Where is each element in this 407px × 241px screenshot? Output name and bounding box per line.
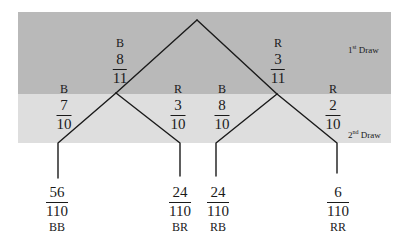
outcome-rb: 24 110 RB xyxy=(207,185,229,233)
branch-first-r xyxy=(197,20,277,94)
outcome-br: 24 110 BR xyxy=(169,185,191,233)
draw-number: 2 xyxy=(348,130,353,140)
draw-ordinal-suffix: st xyxy=(353,44,357,50)
outcome-probability: 24 110 xyxy=(169,185,191,219)
numerator: 3 xyxy=(171,98,186,116)
numerator: 8 xyxy=(215,98,230,116)
denominator: 10 xyxy=(326,116,341,132)
first-draw-b-node: B 8 11 xyxy=(113,37,127,86)
denominator: 110 xyxy=(46,203,68,219)
first-draw-r-probability: 3 11 xyxy=(271,52,285,86)
first-draw-b-label: B xyxy=(113,37,127,49)
draw-text: Draw xyxy=(359,130,381,140)
first-draw-r-label: R xyxy=(271,37,285,49)
denominator: 10 xyxy=(57,116,72,132)
draw-number: 1 xyxy=(348,45,353,55)
second-draw-rr-node: R 2 10 xyxy=(326,83,341,132)
outcome-probability: 6 110 xyxy=(327,185,349,219)
numerator: 2 xyxy=(326,98,341,116)
denominator: 11 xyxy=(113,70,127,86)
numerator: 24 xyxy=(207,185,229,203)
numerator: 24 xyxy=(169,185,191,203)
second-draw-rb-node: B 8 10 xyxy=(215,83,230,132)
denominator: 110 xyxy=(169,203,191,219)
second-draw-label: 2nd Draw xyxy=(348,130,381,140)
second-draw-label: B xyxy=(57,83,72,95)
denominator: 11 xyxy=(271,70,285,86)
numerator: 7 xyxy=(57,98,72,116)
outcome-probability: 56 110 xyxy=(46,185,68,219)
second-draw-probability: 7 10 xyxy=(57,98,72,132)
second-draw-probability: 2 10 xyxy=(326,98,341,132)
second-draw-label: B xyxy=(215,83,230,95)
denominator: 110 xyxy=(327,203,349,219)
denominator: 110 xyxy=(207,203,229,219)
numerator: 6 xyxy=(327,185,349,203)
first-draw-r-node: R 3 11 xyxy=(271,37,285,86)
denominator: 10 xyxy=(171,116,186,132)
outcome-code: RB xyxy=(207,221,229,233)
denominator: 10 xyxy=(215,116,230,132)
second-draw-label: R xyxy=(326,83,341,95)
second-draw-label: R xyxy=(171,83,186,95)
outcome-code: BR xyxy=(169,221,191,233)
numerator: 3 xyxy=(271,52,285,70)
first-draw-b-probability: 8 11 xyxy=(113,52,127,86)
outcome-bb: 56 110 BB xyxy=(46,185,68,233)
outcome-code: BB xyxy=(46,221,68,233)
draw-text: Draw xyxy=(357,45,379,55)
outcome-rr: 6 110 RR xyxy=(327,185,349,233)
first-draw-label: 1st Draw xyxy=(348,45,379,55)
second-draw-bb-node: B 7 10 xyxy=(57,83,72,132)
second-draw-probability: 8 10 xyxy=(215,98,230,132)
draw-ordinal-suffix: nd xyxy=(353,129,359,135)
numerator: 56 xyxy=(46,185,68,203)
second-draw-probability: 3 10 xyxy=(171,98,186,132)
numerator: 8 xyxy=(113,52,127,70)
second-draw-br-node: R 3 10 xyxy=(171,83,186,132)
outcome-code: RR xyxy=(327,221,349,233)
outcome-probability: 24 110 xyxy=(207,185,229,219)
